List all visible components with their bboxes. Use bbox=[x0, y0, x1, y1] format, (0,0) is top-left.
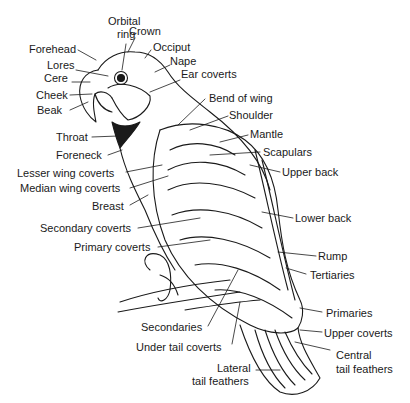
label-secondaries: Secondaries bbox=[141, 321, 202, 333]
label-upper-back: Upper back bbox=[282, 166, 338, 178]
label-primaries: Primaries bbox=[326, 307, 372, 319]
label-nape: Nape bbox=[170, 55, 196, 67]
parrot-anatomy-diagram: Orbital ring Crown Occiput Forehead Nape… bbox=[0, 0, 410, 403]
label-throat: Throat bbox=[56, 131, 88, 143]
label-median-wing-coverts: Median wing coverts bbox=[20, 182, 120, 194]
label-central-tail-feathers-line2: tail feathers bbox=[336, 363, 393, 375]
label-shoulder: Shoulder bbox=[229, 109, 273, 121]
label-rump: Rump bbox=[318, 250, 347, 262]
label-lesser-wing-coverts: Lesser wing coverts bbox=[17, 167, 114, 179]
label-lateral-tail-feathers: Lateral bbox=[217, 362, 251, 374]
label-cere: Cere bbox=[44, 72, 68, 84]
label-cheek: Cheek bbox=[36, 89, 68, 101]
label-breast: Breast bbox=[92, 200, 124, 212]
label-bend-of-wing: Bend of wing bbox=[209, 92, 273, 104]
label-crown: Crown bbox=[129, 25, 161, 37]
label-under-tail-coverts: Under tail coverts bbox=[136, 341, 222, 353]
label-ear-coverts: Ear coverts bbox=[181, 68, 237, 80]
label-secondary-coverts: Secondary coverts bbox=[40, 222, 131, 234]
label-primary-coverts: Primary coverts bbox=[74, 241, 150, 253]
label-beak: Beak bbox=[37, 104, 62, 116]
label-lateral-tail-feathers-line2: tail feathers bbox=[192, 375, 249, 387]
label-lower-back: Lower back bbox=[295, 212, 351, 224]
label-upper-coverts: Upper coverts bbox=[324, 327, 392, 339]
label-mantle: Mantle bbox=[250, 128, 283, 140]
label-occiput: Occiput bbox=[153, 41, 190, 53]
label-central-tail-feathers: Central bbox=[336, 349, 371, 361]
label-foreneck: Foreneck bbox=[56, 149, 102, 161]
label-lores: Lores bbox=[47, 59, 75, 71]
label-tertiaries: Tertiaries bbox=[310, 269, 355, 281]
label-forehead: Forehead bbox=[29, 43, 76, 55]
label-scapulars: Scapulars bbox=[263, 146, 312, 158]
